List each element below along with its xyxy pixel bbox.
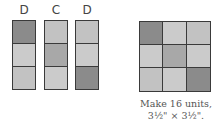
nine-patch-unit bbox=[139, 21, 211, 92]
unit-square-medium bbox=[163, 45, 186, 68]
fabric-strip bbox=[75, 20, 99, 90]
unit-square-dark bbox=[187, 68, 210, 91]
fabric-square-light bbox=[13, 44, 35, 67]
fabric-square-light bbox=[76, 44, 98, 67]
unit-square-dark bbox=[140, 22, 163, 45]
fabric-square-lighter bbox=[76, 21, 98, 44]
unit-square-light bbox=[163, 22, 186, 45]
fabric-square-light bbox=[45, 67, 67, 89]
fabric-square-medium bbox=[45, 44, 67, 67]
left-arrow-icon bbox=[148, 14, 166, 18]
fabric-strip bbox=[44, 20, 68, 90]
strip-label: D bbox=[12, 3, 36, 17]
unit-square-light bbox=[187, 45, 210, 68]
fabric-strip bbox=[12, 20, 36, 90]
caption-line-2: 3½" × 3½". bbox=[128, 110, 224, 122]
fabric-square-dark bbox=[76, 67, 98, 89]
unit-square-light bbox=[163, 68, 186, 91]
caption-line-1: Make 16 units, bbox=[128, 98, 224, 110]
fabric-square-dark bbox=[13, 21, 35, 44]
strip-label: D bbox=[75, 3, 99, 17]
unit-square-light bbox=[140, 45, 163, 68]
fabric-square-lighter bbox=[13, 67, 35, 89]
right-arrow-icon bbox=[180, 14, 198, 18]
unit-square-lighter bbox=[187, 22, 210, 45]
unit-square-lighter bbox=[140, 68, 163, 91]
strip-label: C bbox=[44, 3, 68, 17]
instruction-caption: Make 16 units, 3½" × 3½". bbox=[128, 98, 224, 122]
fabric-square-lighter bbox=[45, 21, 67, 44]
